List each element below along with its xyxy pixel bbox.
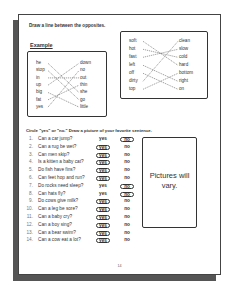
question-row: 6.Can feet hop and run?: [21, 176, 85, 181]
worksheet-page: Draw a line between the opposites. Examp…: [18, 14, 221, 275]
no-option[interactable]: no: [120, 137, 134, 142]
page-number: 14: [19, 264, 220, 268]
no-option[interactable]: no: [120, 192, 134, 197]
question-text: Do cows give milk?: [38, 198, 78, 203]
no-option[interactable]: no: [120, 207, 134, 212]
question-number: 7.: [21, 184, 33, 189]
question-row: 14.Can a cow eat a lot?: [21, 238, 81, 243]
question-row: 2.Can a rug be wet?: [21, 145, 76, 150]
example-left-word: in: [36, 76, 40, 81]
question-text: Is a kitten a baby cat?: [38, 159, 84, 164]
question-text: Can a leg be sore?: [38, 206, 78, 211]
question-number: 14.: [21, 238, 33, 243]
question-number: 1.: [21, 137, 33, 142]
no-option[interactable]: no: [120, 168, 134, 173]
no-option[interactable]: no: [120, 199, 134, 204]
question-number: 8.: [21, 192, 33, 197]
question-text: Can a cow eat a lot?: [38, 237, 81, 242]
yes-option[interactable]: yes: [96, 192, 110, 197]
question-number: 3.: [21, 153, 33, 158]
picture-box[interactable]: Pictures will vary.: [142, 137, 197, 228]
exercise-left-word: fast: [129, 55, 136, 60]
question-row: 5.Do fish have fins?: [21, 168, 75, 173]
yes-option[interactable]: yes: [96, 145, 110, 150]
question-text: Can hats fly?: [38, 191, 65, 196]
question-text: Do rocks need sleep?: [38, 183, 83, 188]
exercise-right-word: bottom: [179, 71, 193, 76]
no-option[interactable]: no: [120, 184, 134, 189]
yes-option[interactable]: yes: [96, 176, 110, 181]
opposites-instruction: Draw a line between the opposites.: [29, 23, 105, 28]
exercise-right-word: cold: [179, 55, 187, 60]
question-row: 1.Can a car jump?: [21, 137, 72, 142]
example-match-line: [48, 85, 79, 100]
no-option[interactable]: no: [120, 238, 134, 243]
no-option[interactable]: no: [120, 160, 134, 165]
example-label: Example: [30, 42, 53, 48]
question-number: 9.: [21, 199, 33, 204]
yes-option[interactable]: yes: [96, 137, 110, 142]
exercise-left-word: hot: [129, 47, 135, 52]
question-number: 12.: [21, 223, 33, 228]
question-row: 12.Can a boy sing?: [21, 223, 72, 228]
no-option[interactable]: no: [120, 215, 134, 220]
question-row: 11.Can a baby cry?: [21, 215, 72, 220]
question-row: 9.Do cows give milk?: [21, 199, 78, 204]
question-text: Can a bear swim?: [38, 230, 76, 235]
exercise-left-word: off: [129, 71, 134, 76]
no-option[interactable]: no: [120, 145, 134, 150]
question-text: Can a car jump?: [38, 136, 72, 141]
yesno-instruction: Circle "yes" or "no." Draw a picture of …: [26, 128, 152, 133]
example-right-word: thin: [80, 83, 87, 88]
yes-option[interactable]: yes: [96, 153, 110, 158]
exercise-right-word: clean: [179, 39, 190, 44]
example-left-word: yes: [36, 105, 43, 110]
yes-option[interactable]: yes: [96, 231, 110, 236]
example-right-word: down: [80, 61, 91, 66]
exercise-left-word: top: [129, 87, 135, 92]
exercise-left-word: dirty: [129, 79, 138, 84]
yes-option[interactable]: yes: [96, 215, 110, 220]
question-text: Can feet hop and run?: [38, 175, 85, 180]
question-row: 3.Can men skip?: [21, 153, 69, 158]
question-row: 7.Do rocks need sleep?: [21, 184, 83, 189]
example-right-word: no: [80, 68, 85, 73]
example-left-word: big: [36, 90, 42, 95]
yes-option[interactable]: yes: [96, 238, 110, 243]
example-right-word: out: [80, 76, 86, 81]
yes-option[interactable]: yes: [96, 160, 110, 165]
yes-option[interactable]: yes: [96, 223, 110, 228]
yes-option[interactable]: yes: [96, 207, 110, 212]
question-text: Can a boy sing?: [38, 222, 72, 227]
exercise-right-word: slow: [179, 47, 188, 52]
yes-option[interactable]: yes: [96, 184, 110, 189]
yes-option[interactable]: yes: [96, 168, 110, 173]
question-number: 11.: [21, 215, 33, 220]
example-match-line: [48, 63, 79, 85]
example-match-line: [48, 71, 79, 100]
question-row: 10.Can a leg be sore?: [21, 207, 78, 212]
example-right-word: she: [80, 90, 87, 95]
question-text: Can men skip?: [38, 152, 69, 157]
exercise-right-word: right: [179, 79, 188, 84]
example-left-word: he: [36, 61, 41, 66]
exercise-match-line: [143, 41, 178, 81]
question-text: Can a rug be wet?: [38, 144, 76, 149]
question-number: 10.: [21, 207, 33, 212]
exercise-box: softhotfastleftoffdirtytopcleanslowcoldh…: [120, 31, 208, 99]
example-right-word: go: [80, 98, 85, 103]
question-number: 13.: [21, 231, 33, 236]
no-option[interactable]: no: [120, 231, 134, 236]
question-text: Can a baby cry?: [38, 214, 72, 219]
example-match-line: [48, 93, 79, 108]
question-row: 8.Can hats fly?: [21, 192, 65, 197]
example-left-word: fat: [36, 98, 41, 103]
no-option[interactable]: no: [120, 223, 134, 228]
yes-option[interactable]: yes: [96, 199, 110, 204]
exercise-right-word: hard: [179, 63, 188, 68]
no-option[interactable]: no: [120, 153, 134, 158]
question-number: 6.: [21, 176, 33, 181]
picture-note: Pictures will vary.: [143, 171, 196, 191]
no-option[interactable]: no: [120, 176, 134, 181]
exercise-left-word: left: [129, 63, 135, 68]
